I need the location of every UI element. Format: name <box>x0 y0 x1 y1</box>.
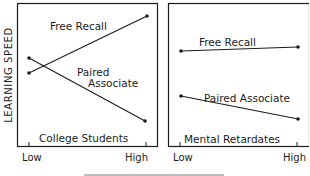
free-recall-label: Free Recall <box>50 20 107 32</box>
panel-frame <box>169 4 310 147</box>
chart-figure: LEARNING SPEED Free Recall Paired Associ… <box>0 0 309 176</box>
data-point <box>27 71 31 75</box>
panel-college-students: Free Recall Paired Associate College Stu… <box>18 4 158 164</box>
paired-associate-label: Paired Associate <box>204 92 290 104</box>
data-point <box>179 94 183 98</box>
panel-title: Mental Retardates <box>184 133 280 145</box>
x-tick-low: Low <box>22 152 42 163</box>
x-tick-high: High <box>125 152 148 163</box>
free-recall-label: Free Recall <box>199 36 256 48</box>
y-axis-label: LEARNING SPEED <box>3 27 14 123</box>
data-point <box>145 14 149 18</box>
data-point <box>143 119 147 123</box>
x-tick-high: High <box>283 152 306 163</box>
cutoff-caption-fragment <box>84 174 224 176</box>
panel-title: College Students <box>39 132 128 144</box>
paired-label-line2: Associate <box>88 77 138 89</box>
data-point <box>27 56 31 60</box>
data-point <box>296 45 300 49</box>
x-tick-low: Low <box>173 152 193 163</box>
panel-mental-retardates: Free Recall Paired Associate Mental Reta… <box>169 4 310 164</box>
data-point <box>296 117 300 121</box>
data-point <box>179 49 183 53</box>
